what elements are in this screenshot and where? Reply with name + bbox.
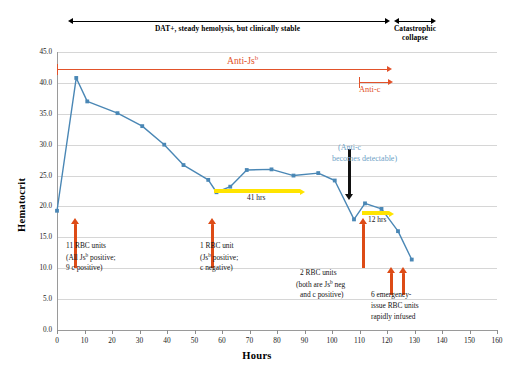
transfusion-note-2-line3: c negative) <box>200 263 233 273</box>
data-point-marker <box>352 218 356 222</box>
y-tick-label: 5.0 <box>26 295 52 303</box>
data-point-marker <box>55 209 59 213</box>
data-point-marker <box>363 201 367 205</box>
y-tick-label: 20.0 <box>26 202 52 210</box>
duration-label-12hrs: 12 hrs <box>368 215 386 224</box>
duration-label-41hrs: 41 hrs <box>247 193 265 202</box>
y-axis-title: Hematocrit <box>16 178 27 232</box>
x-tick-mark <box>140 330 141 334</box>
data-point-marker <box>116 111 120 115</box>
data-point-marker <box>410 258 414 262</box>
y-tick-label: 15.0 <box>26 233 52 241</box>
x-tick-mark <box>442 330 443 334</box>
x-tick-label: 10 <box>74 336 96 345</box>
x-tick-label: 30 <box>129 336 151 345</box>
x-tick-mark <box>167 330 168 334</box>
data-point-marker <box>270 167 274 171</box>
data-point-marker <box>140 124 144 128</box>
transfusion-note-3-line2: (both are Jsb neg <box>296 279 345 290</box>
x-tick-label: 100 <box>321 336 343 345</box>
x-tick-label: 70 <box>239 336 261 345</box>
data-point-marker <box>182 163 186 167</box>
x-tick-label: 120 <box>376 336 398 345</box>
transfusion-note-1-line3: 9 c positive) <box>66 263 103 273</box>
x-tick-label: 130 <box>404 336 426 345</box>
plot-area: Anti-Jsb Anti-c 41 hrs 12 hrs <box>57 52 497 330</box>
x-tick-mark <box>57 330 58 334</box>
x-tick-label: 140 <box>431 336 453 345</box>
transfusion-note-4-line2: issue RBC units <box>371 301 419 311</box>
chart-figure: DAT+, steady hemolysis, but clinically s… <box>0 0 514 384</box>
x-tick-label: 80 <box>266 336 288 345</box>
x-tick-label: 60 <box>211 336 233 345</box>
transfusion-note-3-line1: 2 RBC units <box>300 268 337 278</box>
data-point-marker <box>228 185 232 189</box>
y-tick-label: 30.0 <box>26 141 52 149</box>
transfusion-note-1-line2: (All Jsb positive; <box>66 252 115 263</box>
transfusion-note-2-line2: (Jsb positive; <box>200 252 238 263</box>
transfusion-note-4-line1: 6 emergency- <box>371 290 411 300</box>
transfusion-note-3-line3: and c positive) <box>300 290 344 300</box>
y-tick-label: 25.0 <box>26 172 52 180</box>
data-point-marker <box>206 178 210 182</box>
transfusion-note-2-line1: 1 RBC unit <box>200 241 234 251</box>
x-axis-title: Hours <box>0 350 514 361</box>
x-tick-mark <box>387 330 388 334</box>
anti-c-detectable-note-line2: becomes detectable) <box>332 154 397 164</box>
x-tick-label: 40 <box>156 336 178 345</box>
phase-stable-label: DAT+, steady hemolysis, but clinically s… <box>120 25 335 34</box>
x-tick-mark <box>332 330 333 334</box>
data-point-marker <box>162 143 166 147</box>
x-tick-label: 0 <box>46 336 68 345</box>
x-tick-mark <box>112 330 113 334</box>
phase-collapse-label-line2: collapse <box>383 34 447 43</box>
transfusion-note-4-line3: rapidly infused <box>371 312 416 322</box>
x-tick-mark <box>222 330 223 334</box>
x-tick-mark <box>195 330 196 334</box>
x-tick-mark <box>250 330 251 334</box>
x-tick-mark <box>85 330 86 334</box>
data-point-marker <box>292 174 296 178</box>
data-point-marker <box>85 100 89 104</box>
data-point-marker <box>316 171 320 175</box>
y-tick-label: 35.0 <box>26 110 52 118</box>
transfusion-note-1-line1: 11 RBC units <box>66 241 106 251</box>
x-tick-mark <box>497 330 498 334</box>
x-tick-mark <box>277 330 278 334</box>
data-point-marker <box>74 76 78 80</box>
data-point-marker <box>396 229 400 233</box>
data-point-marker <box>333 179 337 183</box>
x-tick-label: 90 <box>294 336 316 345</box>
x-tick-mark <box>470 330 471 334</box>
x-tick-mark <box>360 330 361 334</box>
x-tick-label: 50 <box>184 336 206 345</box>
x-tick-label: 150 <box>459 336 481 345</box>
data-point-marker <box>380 207 384 211</box>
y-tick-label: 40.0 <box>26 79 52 87</box>
data-point-marker <box>245 168 249 172</box>
x-tick-mark <box>305 330 306 334</box>
y-tick-label: 45.0 <box>26 48 52 56</box>
x-tick-label: 160 <box>486 336 508 345</box>
y-tick-label: 0.0 <box>26 326 52 334</box>
anti-c-detectable-note-line1: (Anti-c <box>338 143 361 153</box>
y-tick-label: 10.0 <box>26 264 52 272</box>
series-line <box>57 78 412 260</box>
x-tick-mark <box>415 330 416 334</box>
x-tick-label: 110 <box>349 336 371 345</box>
x-tick-label: 20 <box>101 336 123 345</box>
